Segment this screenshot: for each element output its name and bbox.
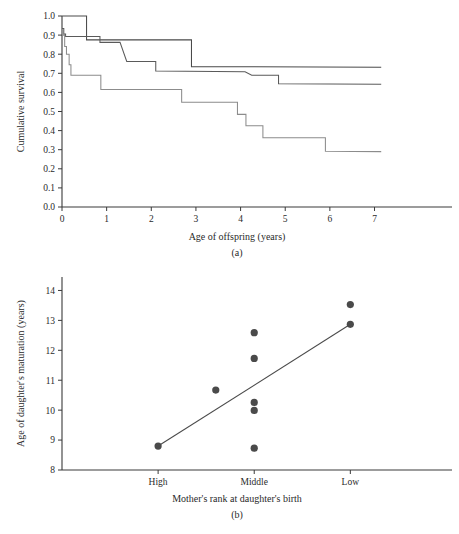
y-tick-label-a: 0.4 bbox=[43, 126, 55, 136]
data-point bbox=[347, 321, 354, 328]
x-tick-label-a: 7 bbox=[372, 214, 377, 224]
x-tick-label-a: 5 bbox=[283, 214, 288, 224]
y-axis-title-b: Age of daughter's maturation (years) bbox=[15, 300, 27, 447]
x-tick-label-a: 1 bbox=[104, 214, 109, 224]
y-tick-label-b: 8 bbox=[50, 465, 55, 475]
x-tick-label-a: 3 bbox=[194, 214, 199, 224]
data-point bbox=[251, 329, 258, 336]
y-tick-label-b: 9 bbox=[50, 435, 55, 445]
data-point bbox=[251, 445, 258, 452]
x-tick-label-a: 2 bbox=[149, 214, 154, 224]
y-tick-label-b: 11 bbox=[46, 376, 55, 386]
panel-a-survival-chart: 0.00.10.20.30.40.50.60.70.80.91.00123456… bbox=[0, 0, 459, 267]
y-tick-label-a: 0.1 bbox=[43, 183, 55, 193]
y-tick-label-b: 12 bbox=[46, 346, 56, 356]
data-point bbox=[251, 355, 258, 362]
y-tick-label-b: 13 bbox=[46, 316, 56, 326]
y-tick-label-a: 0.3 bbox=[43, 145, 55, 155]
x-axis-title-b: Mother's rank at daughter's birth bbox=[172, 493, 302, 504]
x-tick-label-b: Low bbox=[342, 477, 360, 487]
y-tick-label-a: 0.2 bbox=[43, 164, 55, 174]
panel-a-caption: (a) bbox=[231, 247, 242, 259]
y-tick-label-b: 10 bbox=[46, 406, 56, 416]
panel-b-scatter-chart: 891011121314HighMiddleLowMother's rank a… bbox=[0, 265, 459, 534]
survival-plot-svg: 0.00.10.20.30.40.50.60.70.80.91.00123456… bbox=[0, 0, 459, 267]
y-tick-label-a: 0.7 bbox=[43, 69, 55, 79]
y-tick-label-a: 0.0 bbox=[43, 202, 55, 212]
y-axis-title-a: Cumulative survival bbox=[15, 71, 26, 153]
data-point bbox=[155, 442, 162, 449]
x-tick-label-a: 0 bbox=[60, 214, 65, 224]
y-tick-label-a: 0.6 bbox=[43, 88, 55, 98]
survival-curve-curve-bottom bbox=[62, 35, 381, 152]
y-tick-label-a: 0.5 bbox=[43, 107, 55, 117]
panel-b-caption: (b) bbox=[231, 509, 243, 521]
y-tick-label-a: 1.0 bbox=[43, 11, 55, 21]
x-tick-label-b: Middle bbox=[240, 477, 267, 487]
data-point bbox=[251, 399, 258, 406]
regression-line-b bbox=[158, 324, 350, 446]
maturation-plot-svg: 891011121314HighMiddleLowMother's rank a… bbox=[0, 265, 459, 534]
y-tick-label-a: 0.9 bbox=[43, 31, 55, 41]
survival-curve-curve-middle bbox=[62, 28, 381, 84]
y-tick-label-a: 0.8 bbox=[43, 50, 55, 60]
data-point bbox=[251, 407, 258, 414]
data-point bbox=[347, 301, 354, 308]
survival-curve-curve-top bbox=[62, 16, 381, 67]
y-tick-label-b: 14 bbox=[46, 286, 56, 296]
x-axis-title-a: Age of offspring (years) bbox=[189, 231, 286, 243]
x-tick-label-a: 4 bbox=[238, 214, 243, 224]
data-point bbox=[212, 387, 219, 394]
x-tick-label-a: 6 bbox=[327, 214, 332, 224]
x-tick-label-b: High bbox=[149, 477, 168, 487]
